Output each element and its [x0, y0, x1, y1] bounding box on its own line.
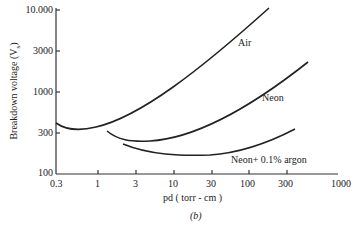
x-tick-label: 3 [133, 178, 138, 189]
x-tick-label: 1000 [331, 178, 351, 189]
x-tick-label: 10 [168, 178, 178, 189]
y-tick-label: 300 [38, 127, 53, 138]
neon-label: Neon [262, 92, 284, 103]
neon-argon-curve [123, 129, 295, 155]
air-label: Air [238, 37, 251, 48]
neon-argon-label: Neon+ 0.1% argon [231, 154, 307, 165]
figure-caption: (b) [190, 210, 202, 221]
x-tick-label: 1 [95, 178, 100, 189]
x-tick-label: 30 [206, 178, 216, 189]
x-tick-label: 0.3 [50, 178, 63, 189]
chart: 10.000 3000 1000 300 100 0.3 1 3 10 30 1… [0, 0, 353, 229]
x-tick-label: 300 [278, 178, 293, 189]
y-tick-label: 1000 [33, 86, 53, 97]
y-tick-label: 100 [38, 167, 53, 178]
axes [56, 8, 338, 174]
y-axis-label: Breakdown voltage (Vs) [8, 36, 22, 146]
x-tick-label: 100 [240, 178, 255, 189]
y-tick-label: 3000 [33, 45, 53, 56]
y-tick-label: 10.000 [26, 4, 54, 15]
x-axis-label: pd ( torr - cm ) [163, 192, 222, 203]
